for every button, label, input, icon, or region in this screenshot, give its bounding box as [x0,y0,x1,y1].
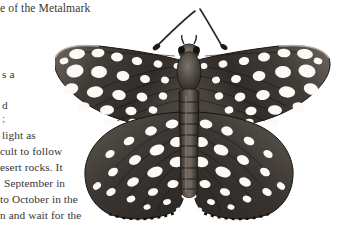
body-line-4: light as [2,130,36,142]
document-page: e of the Metalmark s a d ; light as cult… [0,0,363,238]
right-hindwing [190,112,293,219]
body-line-3: ; [2,113,5,125]
body-text-column: e of the Metalmark s a d ; light as cult… [0,0,150,238]
butterfly-body [177,35,201,198]
body-line-9: n and wait for the [0,210,81,222]
body-line-7: September in [4,178,65,190]
body-line-1: s a [2,69,15,81]
page-heading: e of the Metalmark [0,3,90,15]
body-line-6: esert rocks. It [0,162,63,174]
body-line-2: d [2,100,8,112]
body-line-8: to October in the [0,194,78,206]
body-line-5: cult to follow [0,146,62,158]
